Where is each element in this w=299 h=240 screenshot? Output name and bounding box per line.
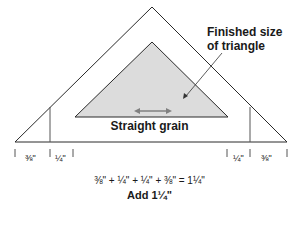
callout-line-2: of triangle — [207, 39, 282, 53]
finished-size-callout: Finished size of triangle — [207, 25, 282, 53]
callout-line-1: Finished size — [207, 25, 282, 39]
finished-triangle — [75, 42, 228, 117]
measurement-left-inner: ¼" — [55, 153, 66, 163]
seam-allowance-result: Add 1¼" — [0, 189, 299, 201]
straight-grain-label: Straight grain — [0, 119, 299, 133]
seam-allowance-equation: ⅜" + ¼" + ¼" + ⅜" = 1¼" — [0, 175, 299, 186]
measurement-right-outer: ⅜" — [261, 153, 272, 163]
measurement-right-inner: ¼" — [233, 153, 244, 163]
measurement-left-outer: ⅜" — [25, 153, 36, 163]
